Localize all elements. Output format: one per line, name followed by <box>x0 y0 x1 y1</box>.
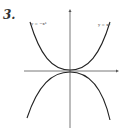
x-axis-arrow-icon <box>116 70 119 73</box>
curve-neg-x4 <box>27 72 110 120</box>
label-left: y = −x⁴ <box>31 21 46 26</box>
graph <box>0 0 124 133</box>
y-axis-arrow-icon <box>69 9 72 12</box>
label-right: y = x⁴ <box>98 22 110 27</box>
